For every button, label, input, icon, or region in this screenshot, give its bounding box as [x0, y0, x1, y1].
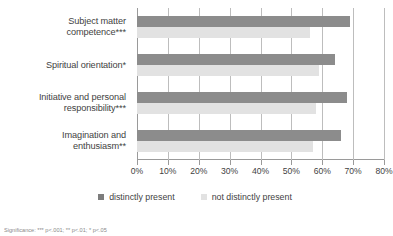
category-label-line: enthusiasm**: [0, 141, 126, 152]
category-label-line: responsibility***: [0, 103, 126, 114]
category-label: Spiritual orientation*: [0, 60, 126, 71]
axis-tick-label: 50%: [283, 166, 300, 176]
axis-tick-label: 40%: [252, 166, 269, 176]
axis-tick: [353, 160, 354, 165]
axis-tick-label: 0%: [131, 166, 143, 176]
bar-distinctly-present: [137, 130, 341, 141]
axis-tick-label: 80%: [375, 166, 392, 176]
axis-tick: [322, 160, 323, 165]
category-label: Imagination andenthusiasm**: [0, 130, 126, 151]
legend-swatch-icon: [98, 194, 104, 200]
bar-distinctly-present: [137, 54, 335, 65]
axis-tick-label: 10%: [159, 166, 176, 176]
plot-canvas: [137, 8, 384, 160]
bar-distinctly-present: [137, 92, 347, 103]
legend-swatch-icon: [201, 194, 207, 200]
legend-item[interactable]: not distinctly present: [201, 192, 292, 202]
axis-tick: [199, 160, 200, 165]
axis-tick-label: 30%: [221, 166, 238, 176]
gridline: [384, 8, 385, 160]
category-axis-labels: Subject mattercompetence***Spiritual ori…: [0, 8, 130, 160]
bar-not-distinctly-present: [137, 141, 313, 152]
plot-area: Subject mattercompetence***Spiritual ori…: [0, 0, 390, 170]
axis-tick-label: 70%: [345, 166, 362, 176]
axis-tick: [230, 160, 231, 165]
axis-tick: [261, 160, 262, 165]
axis-tick-label: 60%: [314, 166, 331, 176]
axis-tick: [168, 160, 169, 165]
category-label: Subject mattercompetence***: [0, 16, 126, 37]
category-label-line: competence***: [0, 27, 126, 38]
chart-footnote: Significance: *** p<.001; ** p<.01; * p<…: [4, 227, 384, 234]
gridline: [353, 8, 354, 160]
legend-label: distinctly present: [109, 192, 175, 202]
axis-tick: [137, 160, 138, 165]
chart-legend: distinctly presentnot distinctly present: [0, 192, 390, 202]
value-axis-ticks: 0%10%20%30%40%50%60%70%80%: [137, 160, 384, 166]
category-label-line: Initiative and personal: [0, 92, 126, 103]
category-label-line: Subject matter: [0, 16, 126, 27]
bar-not-distinctly-present: [137, 27, 310, 38]
bar-not-distinctly-present: [137, 65, 319, 76]
legend-label: not distinctly present: [212, 192, 292, 202]
category-label: Initiative and personalresponsibility***: [0, 92, 126, 113]
axis-tick-label: 20%: [190, 166, 207, 176]
axis-tick: [291, 160, 292, 165]
axis-tick: [384, 160, 385, 165]
category-label-line: Imagination and: [0, 130, 126, 141]
category-label-line: Spiritual orientation*: [0, 60, 126, 71]
bar-not-distinctly-present: [137, 103, 316, 114]
bar-distinctly-present: [137, 16, 350, 27]
legend-item[interactable]: distinctly present: [98, 192, 175, 202]
